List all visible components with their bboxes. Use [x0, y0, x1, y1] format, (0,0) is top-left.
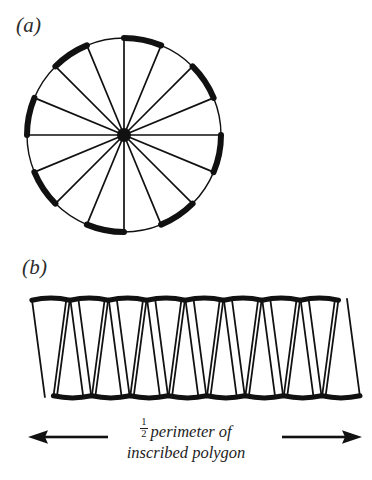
caption: 12perimeter of inscribed polygon — [0, 418, 372, 463]
one-half-fraction: 12 — [140, 417, 147, 439]
rearranged-strip-diagram — [0, 0, 372, 480]
wedge-strip-group — [32, 298, 360, 398]
fraction-numerator: 1 — [140, 417, 147, 428]
fraction-denominator: 2 — [140, 428, 147, 440]
caption-line-2: inscribed polygon — [0, 442, 372, 463]
caption-line-1: 12perimeter of — [0, 418, 372, 442]
caption-text-line-1: perimeter of — [151, 422, 232, 441]
figure-root: (a) (b) 12perimeter of inscribed polygon — [0, 0, 372, 480]
